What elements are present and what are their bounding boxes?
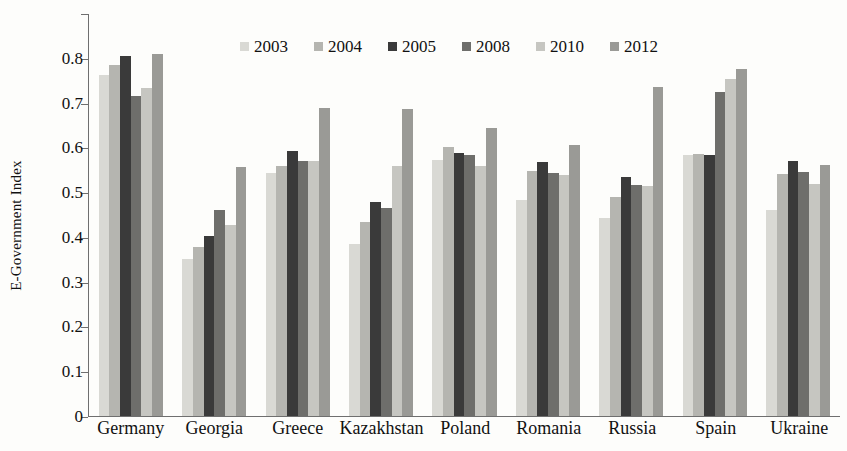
bar-group-bars: [599, 14, 663, 416]
bar[interactable]: [766, 210, 777, 416]
legend-label: 2004: [328, 38, 362, 55]
legend-swatch-icon: [610, 42, 619, 51]
bar[interactable]: [109, 65, 120, 417]
bar[interactable]: [152, 54, 163, 416]
bar[interactable]: [454, 153, 465, 416]
bar[interactable]: [809, 184, 820, 416]
bar[interactable]: [120, 56, 131, 416]
bar[interactable]: [559, 175, 570, 416]
y-axis-tick-label: 0.5: [62, 183, 83, 203]
bar-group: [256, 14, 339, 416]
bar[interactable]: [287, 151, 298, 416]
bar[interactable]: [349, 244, 360, 416]
bar[interactable]: [475, 166, 486, 416]
x-axis-category-label: Romania: [507, 418, 591, 439]
bar[interactable]: [486, 128, 497, 416]
legend-item[interactable]: 2005: [388, 38, 436, 55]
bar-groups: [89, 14, 840, 416]
bar[interactable]: [621, 177, 632, 416]
legend-swatch-icon: [314, 42, 323, 51]
bar-group-bars: [266, 14, 330, 416]
legend-label: 2010: [550, 38, 584, 55]
legend-label: 2003: [254, 38, 288, 55]
bar[interactable]: [443, 147, 454, 416]
bar[interactable]: [392, 166, 403, 416]
bar-group: [506, 14, 589, 416]
bar[interactable]: [569, 145, 580, 416]
bar[interactable]: [204, 236, 215, 416]
bar[interactable]: [193, 247, 204, 416]
x-axis-category-label: Georgia: [173, 418, 257, 439]
bar[interactable]: [131, 96, 142, 416]
bar-group-bars: [432, 14, 496, 416]
bar[interactable]: [527, 171, 538, 416]
bar[interactable]: [516, 200, 527, 416]
bar[interactable]: [276, 166, 287, 416]
legend-item[interactable]: 2010: [536, 38, 584, 55]
y-axis-tick-label: 0.3: [62, 273, 83, 293]
bar[interactable]: [631, 185, 642, 417]
legend-label: 2008: [476, 38, 510, 55]
bar-group-bars: [99, 14, 163, 416]
bar[interactable]: [402, 109, 413, 416]
bar[interactable]: [319, 108, 330, 416]
legend-swatch-icon: [462, 42, 471, 51]
bar[interactable]: [548, 173, 559, 416]
bar-group-bars: [683, 14, 747, 416]
legend-item[interactable]: 2004: [314, 38, 362, 55]
bar[interactable]: [537, 162, 548, 416]
bar[interactable]: [725, 79, 736, 416]
y-axis-tick-label: 0.6: [62, 138, 83, 158]
bar[interactable]: [464, 155, 475, 416]
bar[interactable]: [225, 225, 236, 416]
bar[interactable]: [715, 92, 726, 416]
x-axis-category-label: Russia: [590, 418, 674, 439]
legend-item[interactable]: 2008: [462, 38, 510, 55]
legend-swatch-icon: [536, 42, 545, 51]
bar[interactable]: [820, 165, 831, 416]
bar[interactable]: [308, 161, 319, 416]
bar[interactable]: [370, 202, 381, 416]
bar[interactable]: [704, 155, 715, 416]
bar[interactable]: [182, 259, 193, 416]
bar-group: [673, 14, 756, 416]
bar[interactable]: [214, 210, 225, 416]
bar[interactable]: [99, 75, 110, 416]
y-axis-tick-label: 0: [75, 407, 84, 427]
legend-item[interactable]: 2012: [610, 38, 658, 55]
bar[interactable]: [432, 160, 443, 416]
bar[interactable]: [788, 161, 799, 416]
x-axis-category-label: Germany: [89, 418, 173, 439]
bar[interactable]: [777, 174, 788, 416]
legend-label: 2012: [624, 38, 658, 55]
y-axis-tick: [81, 14, 88, 15]
bar-group: [423, 14, 506, 416]
bar[interactable]: [236, 167, 247, 416]
x-axis-category-labels: GermanyGeorgiaGreeceKazakhstanPolandRoma…: [89, 418, 841, 439]
bar[interactable]: [683, 155, 694, 416]
bar[interactable]: [360, 222, 371, 416]
bar[interactable]: [693, 154, 704, 416]
legend-item[interactable]: 2003: [240, 38, 288, 55]
bar[interactable]: [381, 208, 392, 416]
bar[interactable]: [653, 87, 664, 416]
legend-swatch-icon: [388, 42, 397, 51]
bar[interactable]: [610, 197, 621, 416]
bar-group: [590, 14, 673, 416]
x-axis-line: [88, 416, 840, 417]
y-axis-tick-label: 0.2: [62, 317, 83, 337]
bar[interactable]: [266, 173, 277, 416]
bar[interactable]: [798, 172, 809, 416]
bar-group-bars: [182, 14, 246, 416]
x-axis-category-label: Kazakhstan: [340, 418, 424, 439]
y-axis-tick-label: 0.4: [62, 228, 83, 248]
y-axis-tick-label: 0.7: [62, 94, 83, 114]
bar[interactable]: [736, 69, 747, 416]
bar[interactable]: [642, 186, 653, 416]
bar[interactable]: [141, 88, 152, 416]
bar[interactable]: [298, 161, 309, 416]
x-axis-category-label: Ukraine: [757, 418, 841, 439]
bar[interactable]: [599, 218, 610, 416]
bar-group-bars: [349, 14, 413, 416]
legend-swatch-icon: [240, 42, 249, 51]
